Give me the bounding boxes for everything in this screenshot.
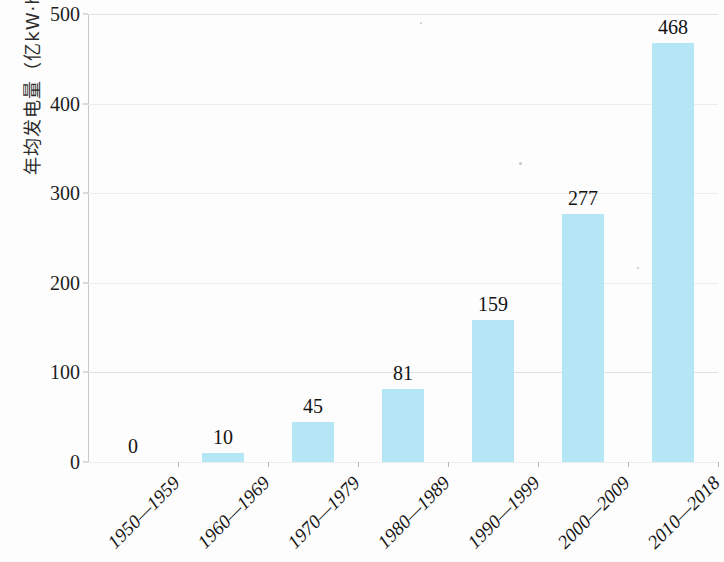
bar-value-label: 81 [393,362,413,385]
gridline [88,462,718,463]
x-tick-mark [268,462,269,467]
y-tick-mark [83,282,88,283]
x-tick-label: 1970—1979 [283,472,364,553]
plot-area: 0100200300400500 0104581159277468 [88,14,718,462]
bar-value-label: 468 [658,16,688,39]
y-tick-mark [83,372,88,373]
x-tick-mark [718,462,719,467]
gridline [88,283,718,284]
bar [652,43,694,462]
x-tick-label: 1980—1989 [373,472,454,553]
scan-speck [519,162,522,165]
x-tick-label: 2010—2018 [643,472,724,553]
x-tick-label: 1990—1999 [463,472,544,553]
bar-value-label: 0 [128,435,138,458]
y-tick-mark [83,462,88,463]
gridline [88,104,718,105]
gridline [88,193,718,194]
y-tick-mark [83,14,88,15]
x-tick-mark [178,462,179,467]
x-tick-label: 1960—1969 [193,472,274,553]
x-tick-label: 2000—2009 [553,472,634,553]
x-tick-mark [628,462,629,467]
bar-value-label: 45 [303,395,323,418]
y-tick-label: 200 [50,271,80,294]
bar [292,422,334,462]
y-tick-label: 0 [70,451,80,474]
chart-figure: 年均发电量（亿kW·h） 0100200300400500 0104581159… [0,0,724,562]
y-tick-label: 400 [50,92,80,115]
bar-value-label: 10 [213,426,233,449]
gridline [88,14,718,15]
bar-value-label: 159 [478,293,508,316]
bar [202,453,244,462]
x-tick-mark [358,462,359,467]
scan-speck [637,267,639,269]
y-tick-mark [83,103,88,104]
x-tick-mark [448,462,449,467]
y-axis-title: 年均发电量（亿kW·h） [18,0,42,194]
bar-value-label: 277 [568,187,598,210]
x-tick-mark [538,462,539,467]
bar [382,389,424,462]
bar [562,214,604,462]
y-tick-mark [83,193,88,194]
x-tick-label: 1950—1959 [103,472,184,553]
y-tick-label: 300 [50,182,80,205]
bar [472,320,514,462]
y-tick-label: 500 [50,3,80,26]
y-tick-label: 100 [50,361,80,384]
scan-speck [420,22,422,24]
